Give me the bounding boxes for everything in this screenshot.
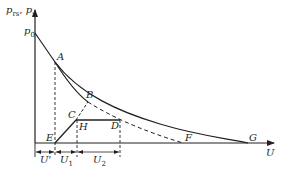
point-label-f: F — [185, 133, 192, 143]
point-label-e: E — [46, 133, 53, 143]
point-label-d: D — [111, 121, 119, 131]
dim-label-u2: U2 — [93, 155, 106, 168]
line-p0-to-a — [35, 33, 55, 62]
point-label-g: G — [249, 133, 257, 143]
y-axis-label: prs, ps — [6, 5, 36, 18]
curve-b-to-f-dashed — [88, 102, 183, 143]
point-label-b: B — [86, 90, 93, 100]
line-c-to-b-dashed — [76, 102, 88, 120]
pressure-displacement-diagram: prs, ps p0 U A B C H D E F G U' U1 U2 — [0, 0, 285, 176]
x-axis-label: U — [266, 148, 274, 158]
point-label-a: A — [57, 52, 64, 62]
y-intercept-label: p0 — [24, 26, 35, 39]
point-label-h: H — [79, 122, 88, 132]
dim-label-u-prime: U' — [40, 155, 51, 165]
point-label-c: C — [68, 110, 76, 120]
line-e-to-c — [55, 120, 76, 143]
dim-label-u1: U1 — [60, 155, 73, 168]
diagram-canvas — [0, 0, 285, 176]
